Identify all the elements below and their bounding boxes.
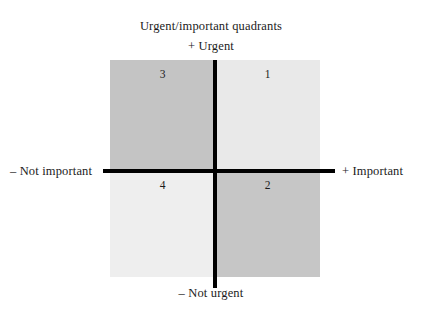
vertical-axis-line	[213, 60, 217, 288]
urgent-important-quadrants-figure: Urgent/important quadrants + Urgent – No…	[0, 0, 422, 309]
axis-label-bottom-not-urgent: – Not urgent	[0, 286, 422, 301]
axis-label-left-not-important: – Not important	[10, 164, 92, 179]
quadrant-1-urgent-important: 1	[215, 60, 320, 171]
axis-label-right-important: + Important	[342, 164, 403, 179]
axis-label-top-urgent: + Urgent	[0, 39, 422, 54]
quadrant-4-not-urgent-not-important: 4	[110, 171, 215, 277]
quadrant-2-not-urgent-important: 2	[215, 171, 320, 277]
figure-title: Urgent/important quadrants	[0, 19, 422, 34]
horizontal-axis-line	[103, 169, 335, 173]
quadrant-3-urgent-not-important: 3	[110, 60, 215, 171]
quadrant-2-label: 2	[215, 179, 362, 191]
quadrant-1-label: 1	[215, 68, 362, 80]
